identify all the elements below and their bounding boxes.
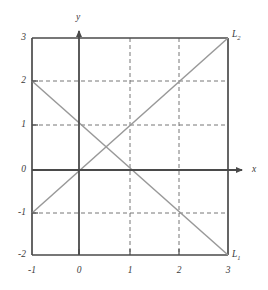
x-tick-label-0: 0 — [69, 266, 89, 276]
grid-lines-vertical — [130, 38, 179, 255]
line-label-L2: L2 — [232, 30, 241, 41]
y-tick-label-2: 2 — [8, 76, 26, 86]
plot-canvas — [0, 0, 268, 290]
coordinate-graph-figure: 3 2 1 0 -1 -2 -1 0 1 2 3 y x L2 L1 — [0, 0, 268, 290]
line-label-L1-sub: 1 — [237, 254, 240, 261]
x-axis-label: x — [252, 165, 256, 175]
y-axis-label: y — [76, 13, 80, 23]
y-tick-label-1: 1 — [8, 120, 26, 130]
line-label-L1: L1 — [232, 250, 241, 261]
x-tick-label-1: 1 — [120, 266, 140, 276]
line-label-L2-sub: 2 — [237, 34, 240, 41]
x-axis-ticks — [79, 249, 179, 255]
x-tick-label-minus1: -1 — [22, 266, 42, 276]
x-tick-label-2: 2 — [169, 266, 189, 276]
y-tick-label-minus2: -2 — [6, 250, 26, 260]
y-tick-label-minus1: -1 — [6, 208, 26, 218]
x-tick-label-3: 3 — [218, 266, 238, 276]
y-tick-label-3: 3 — [8, 33, 26, 43]
y-tick-label-0: 0 — [8, 165, 26, 175]
y-axis-ticks — [32, 81, 38, 213]
